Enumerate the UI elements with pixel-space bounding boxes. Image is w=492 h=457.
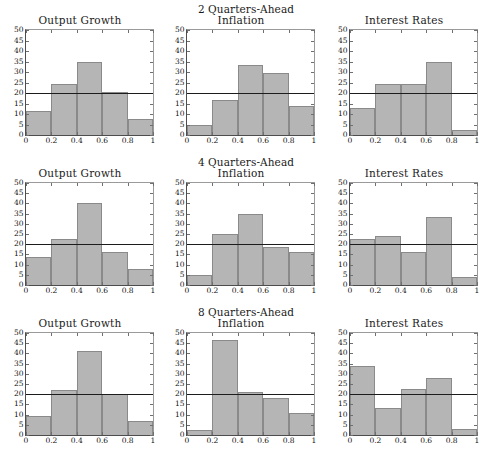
x-axis-tick-mark [128,132,129,135]
y-axis-tick-label: 40 [14,349,24,357]
y-axis-tick-mark [474,51,477,52]
y-axis-tick-label: 50 [175,26,185,34]
x-axis-tick-label: 0.4 [395,437,407,445]
uniform-reference-line [187,244,314,245]
x-axis-tick-label: 0.8 [446,287,458,295]
y-axis-tick-label: 20 [175,240,185,248]
x-axis-tick-mark [102,132,103,135]
y-axis-tick-label: 50 [175,329,185,337]
y-axis-tick-label: 45 [338,37,348,45]
histogram-bar [77,62,102,136]
y-axis-tick-mark [26,343,29,344]
plot-area: 0510152025303540455000.20.40.60.81 [349,332,478,436]
y-axis-tick-label: 35 [338,360,348,368]
y-axis-tick-label: 15 [338,250,348,258]
x-axis-tick-mark [289,30,290,33]
y-axis-tick-label: 10 [14,411,24,419]
y-axis-tick-label: 40 [175,349,185,357]
x-axis-tick-mark [452,333,453,336]
uniform-reference-line [350,394,477,395]
y-axis-tick-label: 30 [175,370,185,378]
x-axis-tick-mark [77,30,78,33]
uniform-reference-line [26,394,153,395]
x-axis-tick-mark [238,282,239,285]
x-axis-tick-mark [153,282,154,285]
x-axis-tick-mark [128,432,129,435]
x-axis-tick-mark [187,282,188,285]
y-axis-tick-mark [26,374,29,375]
x-axis-tick-mark [375,282,376,285]
y-axis-tick-label: 45 [338,189,348,197]
y-axis-tick-label: 45 [175,189,185,197]
y-axis-tick-mark [311,114,314,115]
x-axis-tick-label: 0.2 [206,287,218,295]
x-axis-tick-label: 0.2 [369,287,381,295]
panel-row-4-quarters-ahead: 4 Quarters-Ahead Output Growth 051015202… [0,155,492,305]
y-axis-tick-mark [26,72,29,73]
histogram-bar [187,125,212,136]
x-axis-tick-label: 0.2 [206,137,218,145]
y-axis-tick-label: 40 [338,47,348,55]
x-axis-tick-mark [102,432,103,435]
histogram-bar [401,84,426,135]
x-axis-tick-label: 0.4 [232,437,244,445]
histogram-bar [350,108,375,135]
y-axis-tick-label: 15 [175,100,185,108]
y-axis-tick-mark [187,415,190,416]
x-axis-tick-mark [289,432,290,435]
panel-output-growth-4q: Output Growth 0510152025303540455000.20.… [0,155,160,305]
x-axis-tick-label: 0.8 [283,437,295,445]
x-axis-tick-mark [375,432,376,435]
y-axis-tick-mark [311,374,314,375]
y-axis-tick-label: 45 [14,339,24,347]
y-axis-tick-mark [26,353,29,354]
y-axis-tick-mark [311,384,314,385]
x-axis-tick-label: 0.6 [420,137,432,145]
y-axis-tick-mark [187,62,190,63]
histogram-bar [289,106,314,135]
y-axis-tick-label: 5 [180,121,185,129]
bar-series [26,30,153,135]
histogram-bar [238,392,263,435]
x-axis-tick-mark [77,282,78,285]
y-axis-tick-mark [187,72,190,73]
x-axis-tick-label: 0.8 [122,287,134,295]
y-axis-tick-mark [150,125,153,126]
y-axis-tick-label: 15 [175,250,185,258]
x-axis-tick-mark [426,333,427,336]
histogram-bar [26,416,51,435]
x-axis-tick-mark [212,30,213,33]
y-axis-tick-mark [187,41,190,42]
x-axis-tick-label: 0 [348,287,353,295]
x-axis-tick-label: 0 [24,137,29,145]
y-axis-tick-mark [350,114,353,115]
y-axis-tick-label: 25 [14,79,24,87]
x-axis-tick-mark [350,333,351,336]
y-axis-tick-label: 45 [338,339,348,347]
y-axis-tick-label: 25 [14,380,24,388]
x-axis-tick-mark [128,333,129,336]
x-axis-tick-mark [314,30,315,33]
x-axis-tick-label: 0.4 [71,137,83,145]
x-axis-tick-label: 0.2 [369,437,381,445]
x-axis-tick-label: 1 [312,137,317,145]
x-axis-tick-label: 0.4 [232,287,244,295]
x-axis-tick-mark [26,183,27,186]
y-axis-tick-mark [187,265,190,266]
y-axis-tick-mark [311,343,314,344]
x-axis-tick-mark [401,183,402,186]
y-axis-tick-mark [187,234,190,235]
x-axis-tick-mark [128,183,129,186]
y-axis-tick-mark [150,62,153,63]
x-axis-tick-label: 0 [185,137,190,145]
x-axis-tick-mark [102,183,103,186]
y-axis-tick-mark [474,83,477,84]
y-axis-tick-mark [350,125,353,126]
y-axis-tick-mark [26,224,29,225]
y-axis-tick-mark [150,193,153,194]
plot-area: 0510152025303540455000.20.40.60.81 [25,182,154,286]
y-axis-tick-mark [474,343,477,344]
y-axis-tick-mark [474,415,477,416]
y-axis-tick-label: 10 [175,110,185,118]
x-axis-tick-mark [452,432,453,435]
